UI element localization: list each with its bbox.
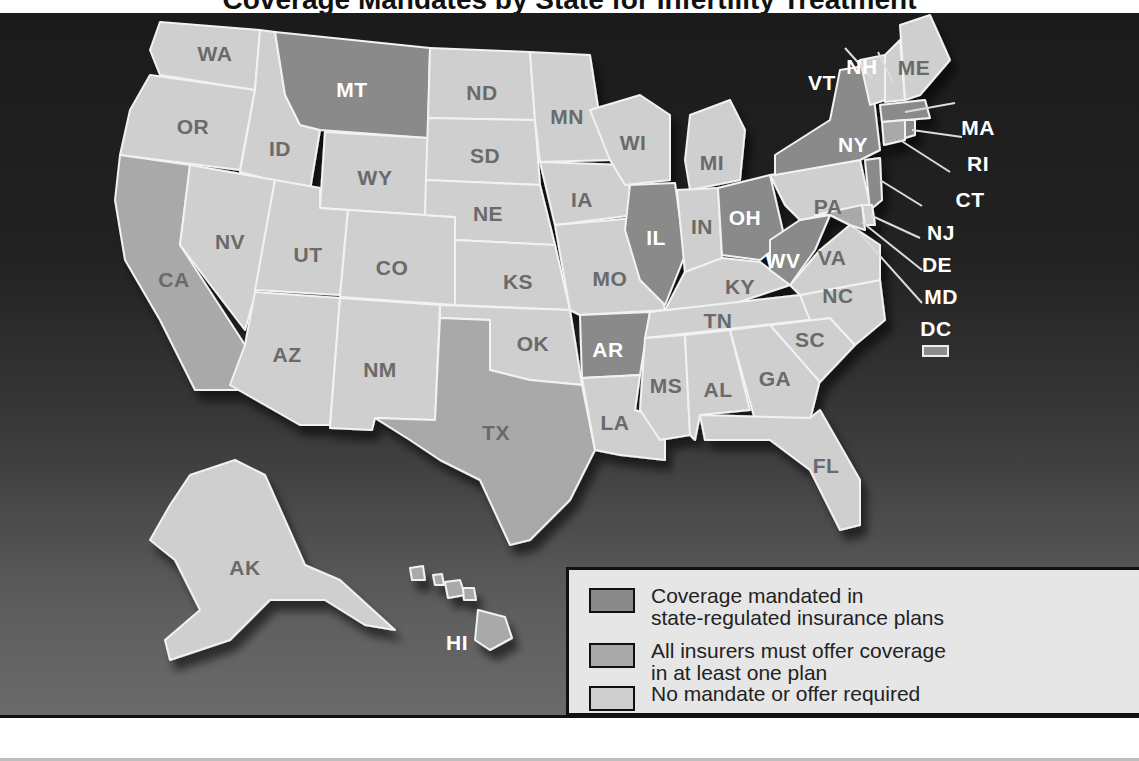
label-MN: MN <box>550 105 584 129</box>
label-MT: MT <box>336 78 367 102</box>
label-NM: NM <box>363 358 397 382</box>
label-AL: AL <box>704 378 733 402</box>
label-VT: VT <box>808 71 836 95</box>
map-title: Coverage Mandates by State for Infertili… <box>0 0 1139 13</box>
label-ND: ND <box>466 81 497 105</box>
legend: Coverage mandated in state-regulated ins… <box>566 567 1139 716</box>
legend-item-mandated: Coverage mandated in state-regulated ins… <box>589 585 1071 629</box>
label-RI: RI <box>967 152 989 176</box>
label-PA: PA <box>814 195 843 219</box>
state-RI[interactable] <box>905 120 915 138</box>
label-OK: OK <box>517 332 550 356</box>
label-NV: NV <box>215 230 245 254</box>
label-SC: SC <box>795 328 825 352</box>
legend-label-line2: in at least one plan <box>651 662 1071 684</box>
state-HI-island <box>463 588 476 600</box>
label-TX: TX <box>482 421 510 445</box>
label-WI: WI <box>620 131 647 155</box>
legend-swatch-mandated <box>589 588 635 613</box>
label-MA: MA <box>961 116 995 140</box>
legend-swatch-offer <box>589 643 635 668</box>
label-TN: TN <box>704 309 733 333</box>
label-WY: WY <box>358 166 393 190</box>
label-NY: NY <box>838 133 868 157</box>
label-KS: KS <box>503 270 533 294</box>
label-DC: DC <box>920 317 951 341</box>
legend-label-line1: Coverage mandated in <box>651 585 1071 607</box>
label-GA: GA <box>759 367 792 391</box>
label-CO: CO <box>376 256 409 280</box>
label-WA: WA <box>198 42 233 66</box>
label-NJ: NJ <box>927 221 955 245</box>
label-UT: UT <box>294 243 323 267</box>
label-CT: CT <box>956 188 985 212</box>
label-IN: IN <box>691 215 713 239</box>
dc-swatch <box>922 345 949 357</box>
legend-swatch-none <box>589 686 635 711</box>
label-WV: WV <box>766 249 801 273</box>
label-HI: HI <box>446 631 468 655</box>
state-AK[interactable] <box>150 460 395 660</box>
label-MD: MD <box>924 285 958 309</box>
label-OH: OH <box>729 206 762 230</box>
label-AK: AK <box>229 556 260 580</box>
legend-label-line2: state-regulated insurance plans <box>651 607 1071 629</box>
label-NH: NH <box>846 55 877 79</box>
state-HI[interactable] <box>475 610 512 650</box>
legend-label-line1: All insurers must offer coverage <box>651 640 1071 662</box>
label-FL: FL <box>813 454 840 478</box>
label-KY: KY <box>725 275 755 299</box>
state-MI[interactable] <box>685 100 745 190</box>
label-AZ: AZ <box>273 343 302 367</box>
bottom-strip <box>0 718 1139 761</box>
state-HI-island <box>410 566 425 580</box>
label-ID: ID <box>269 137 291 161</box>
label-VA: VA <box>818 246 847 270</box>
label-CA: CA <box>158 268 189 292</box>
label-NE: NE <box>473 202 503 226</box>
label-AR: AR <box>592 338 623 362</box>
label-MI: MI <box>700 151 724 175</box>
title-strip: Coverage Mandates by State for Infertili… <box>0 0 1139 13</box>
label-NC: NC <box>822 284 853 308</box>
state-HI-island <box>433 574 444 585</box>
label-IL: IL <box>646 226 666 250</box>
label-SD: SD <box>470 144 500 168</box>
legend-item-none: No mandate or offer required <box>589 683 1071 711</box>
legend-item-offer: All insurers must offer coverage in at l… <box>589 640 1071 684</box>
label-IA: IA <box>571 188 593 212</box>
label-MO: MO <box>593 267 628 291</box>
label-DE: DE <box>922 253 952 277</box>
label-LA: LA <box>601 411 630 435</box>
label-MS: MS <box>650 374 683 398</box>
state-HI-island <box>445 580 465 598</box>
label-OR: OR <box>177 115 210 139</box>
legend-label-line1: No mandate or offer required <box>651 683 1071 705</box>
label-ME: ME <box>898 56 931 80</box>
